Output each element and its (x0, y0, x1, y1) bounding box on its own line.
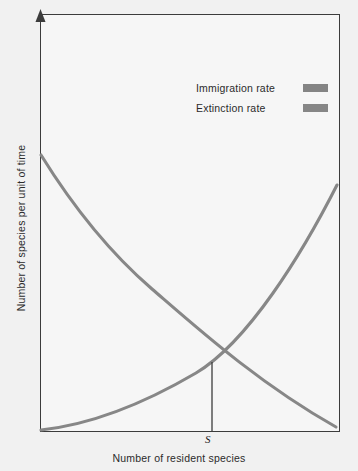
legend-item-extinction-rate: Extinction rate (196, 98, 328, 118)
chart-figure: Immigration rate Extinction rate S Numbe… (0, 0, 358, 471)
legend-label-immigration-rate: Immigration rate (196, 82, 275, 94)
x-axis-title: Number of resident species (0, 452, 358, 464)
equilibrium-tick-label: S (205, 433, 211, 445)
legend-swatch-extinction-rate (303, 104, 328, 112)
chart-legend: Immigration rate Extinction rate (196, 78, 328, 118)
legend-label-extinction-rate: Extinction rate (196, 102, 266, 114)
legend-item-immigration-rate: Immigration rate (196, 78, 328, 98)
legend-swatch-immigration-rate (303, 84, 328, 92)
y-axis-title: Number of species per unit of time (15, 113, 27, 343)
plot-area (40, 14, 340, 432)
